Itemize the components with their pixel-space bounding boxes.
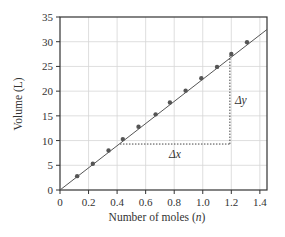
y-tick-label: 30 [42, 36, 54, 48]
data-point [199, 76, 203, 80]
tick-labels: 00.20.40.60.81.01.21.405101520253035 [42, 11, 267, 208]
y-tick-label: 0 [48, 184, 54, 196]
volume-vs-moles-chart: 00.20.40.60.81.01.21.405101520253035 Num… [0, 0, 285, 237]
y-tick-label: 10 [42, 135, 54, 147]
data-point [215, 65, 219, 69]
x-tick-label: 1.2 [224, 196, 238, 208]
data-point [121, 137, 125, 141]
x-tick-label: 0.4 [110, 196, 124, 208]
x-tick-label: 0 [57, 196, 63, 208]
x-tick-label: 1.0 [196, 196, 210, 208]
x-axis-label: Number of moles (n) [109, 211, 206, 224]
y-tick-label: 15 [42, 110, 54, 122]
x-tick-label: 0.2 [82, 196, 96, 208]
y-tick-label: 5 [48, 159, 54, 171]
delta-y-label: Δy [234, 94, 248, 107]
fit-line [60, 29, 267, 190]
x-tick-label: 1.4 [253, 196, 267, 208]
data-point [106, 148, 110, 152]
data-point [75, 174, 79, 178]
data-point [183, 88, 187, 92]
data-point [91, 162, 95, 166]
y-tick-label: 35 [42, 11, 54, 23]
data-point [153, 112, 157, 116]
data-point [136, 125, 140, 129]
data-point [245, 40, 249, 44]
delta-x-label: Δx [168, 148, 182, 160]
y-tick-label: 25 [42, 60, 54, 72]
y-tick-label: 20 [42, 85, 54, 97]
x-tick-label: 0.8 [167, 196, 181, 208]
y-axis-label: Volume (L) [12, 77, 25, 130]
data-point [168, 100, 172, 104]
x-tick-label: 0.6 [139, 196, 153, 208]
